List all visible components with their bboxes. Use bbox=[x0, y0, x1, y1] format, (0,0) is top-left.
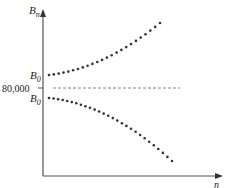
x-axis-label: n bbox=[214, 179, 219, 188]
upper-curve-dots bbox=[48, 22, 162, 77]
b0-upper-label: B0 bbox=[30, 69, 41, 84]
y-axis-label: Bn bbox=[29, 4, 40, 19]
chart: Bn n 80,000 B0 B0 bbox=[0, 0, 232, 188]
b0-lower-label: B0 bbox=[30, 92, 41, 107]
tick-label-80000: 80,000 bbox=[2, 83, 30, 94]
lower-curve-dots bbox=[48, 97, 174, 163]
y-axis-arrow-icon bbox=[40, 9, 46, 17]
